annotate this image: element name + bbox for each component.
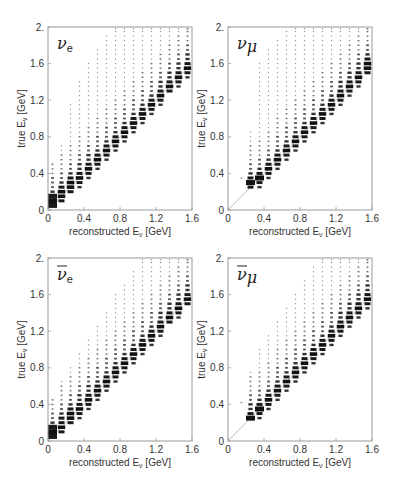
- panel-label: νe: [57, 265, 73, 285]
- x-tick-label: 0.8: [113, 213, 127, 224]
- y-tick-label: 1.6: [210, 58, 224, 69]
- panel-nu-mu: 00.40.81.21.600.40.81.21.62.reconstructe…: [196, 22, 379, 239]
- x-tick-label: 0: [225, 444, 231, 455]
- y-tick-label: 0: [38, 205, 44, 216]
- y-axis-label: true Eν [GeV]: [196, 320, 208, 379]
- y-tick-label: 1.6: [30, 58, 44, 69]
- x-tick-label: 0.8: [113, 444, 127, 455]
- y-tick-label: 0.4: [210, 399, 224, 410]
- x-axis-label: reconstructed Eν [GeV]: [249, 226, 351, 238]
- x-tick-label: 0: [45, 444, 51, 455]
- x-tick-label: 0.4: [77, 444, 91, 455]
- x-tick-label: 1.2: [329, 444, 343, 455]
- panel-nu-e: 00.40.81.21.600.40.81.21.62.reconstructe…: [16, 22, 199, 239]
- x-tick-label: 0: [45, 213, 51, 224]
- y-axis-label: true Eν [GeV]: [196, 89, 208, 148]
- y-tick-label: 0.8: [30, 362, 44, 373]
- y-tick-label: 1.2: [30, 326, 44, 337]
- y-tick-label: 1.2: [210, 95, 224, 106]
- panel-label: νμ: [237, 34, 257, 56]
- x-tick-label: 1.2: [329, 213, 343, 224]
- y-axis-label: true Eν [GeV]: [16, 320, 28, 379]
- density-markers: [48, 28, 191, 208]
- x-axis-label: reconstructed Eν [GeV]: [249, 457, 351, 469]
- x-tick-label: 0: [225, 213, 231, 224]
- x-tick-label: 0.8: [293, 213, 307, 224]
- y-tick-label: 2.: [36, 22, 44, 33]
- y-axis-label: true Eν [GeV]: [16, 89, 28, 148]
- y-tick-label: 1.2: [210, 326, 224, 337]
- x-tick-label: 0.4: [257, 444, 271, 455]
- x-tick-label: 1.6: [185, 444, 199, 455]
- x-tick-label: 1.6: [365, 213, 379, 224]
- y-tick-label: 1.2: [30, 95, 44, 106]
- density-markers: [48, 259, 191, 439]
- density-markers: [241, 259, 372, 421]
- y-tick-label: 0.4: [30, 399, 44, 410]
- panel-label: νμ: [237, 265, 257, 287]
- y-tick-label: 1.6: [30, 289, 44, 300]
- x-tick-label: 1.6: [185, 213, 199, 224]
- y-tick-label: 0: [38, 436, 44, 447]
- y-tick-label: 0: [218, 205, 224, 216]
- y-tick-label: 0.8: [30, 131, 44, 142]
- figure: 00.40.81.21.600.40.81.21.62.reconstructe…: [0, 0, 398, 491]
- y-tick-label: 0.8: [210, 131, 224, 142]
- y-tick-label: 1.6: [210, 289, 224, 300]
- y-tick-label: 2.: [216, 22, 224, 33]
- x-axis-label: reconstructed Eν [GeV]: [69, 226, 171, 238]
- y-tick-label: 0.8: [210, 362, 224, 373]
- density-markers: [241, 28, 372, 189]
- y-tick-label: 0: [218, 436, 224, 447]
- panel-label: νe: [57, 34, 73, 54]
- x-tick-label: 0.4: [77, 213, 91, 224]
- x-tick-label: 0.4: [257, 213, 271, 224]
- x-axis-label: reconstructed Eν [GeV]: [69, 457, 171, 469]
- x-tick-label: 1.2: [149, 444, 163, 455]
- panel-nubar-mu: 00.40.81.21.600.40.81.21.62.reconstructe…: [196, 253, 379, 470]
- x-tick-label: 0.8: [293, 444, 307, 455]
- x-tick-label: 1.6: [365, 444, 379, 455]
- y-tick-label: 0.4: [30, 168, 44, 179]
- panel-nubar-e: 00.40.81.21.600.40.81.21.62.reconstructe…: [16, 253, 199, 470]
- y-tick-label: 2.: [216, 253, 224, 264]
- x-tick-label: 1.2: [149, 213, 163, 224]
- y-tick-label: 2.: [36, 253, 44, 264]
- y-tick-label: 0.4: [210, 168, 224, 179]
